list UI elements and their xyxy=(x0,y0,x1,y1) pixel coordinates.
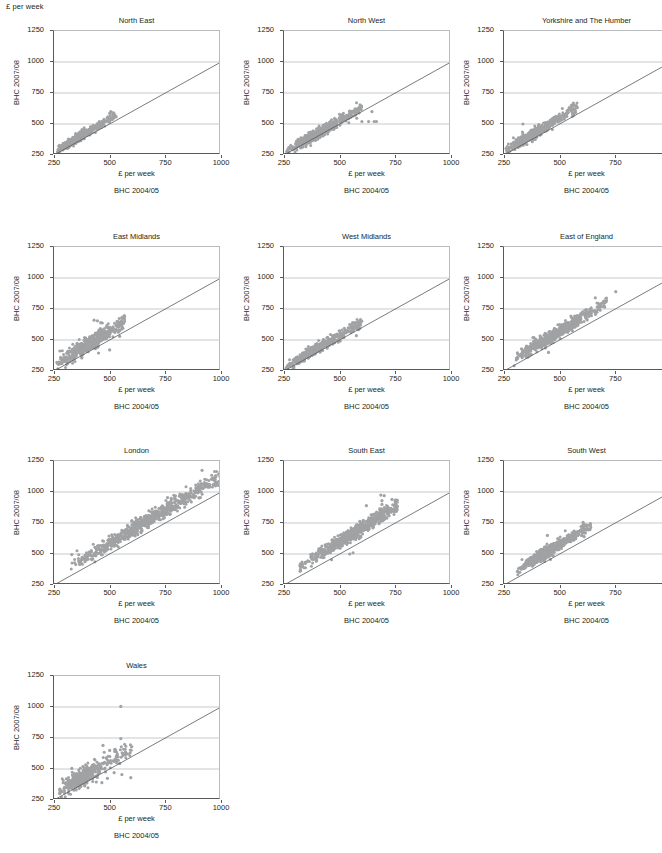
data-point xyxy=(135,519,138,522)
x-axis-title: £ per week xyxy=(53,599,220,608)
data-point xyxy=(526,558,529,561)
data-point xyxy=(299,353,302,356)
panel-title: South East xyxy=(283,446,450,455)
data-point xyxy=(118,329,121,332)
data-point xyxy=(517,140,520,143)
data-point xyxy=(74,132,77,135)
x-tick-label: 750 xyxy=(389,158,402,167)
data-point xyxy=(77,557,80,560)
data-point xyxy=(162,505,165,508)
data-point xyxy=(177,501,180,504)
reference-line-y-equals-x xyxy=(54,492,220,584)
data-point xyxy=(382,512,385,515)
data-point xyxy=(585,315,588,318)
y-tick-label: 1000 xyxy=(477,57,494,65)
data-point xyxy=(122,322,125,325)
data-point xyxy=(175,504,178,507)
data-point xyxy=(189,489,192,492)
data-point xyxy=(289,144,292,147)
data-point xyxy=(130,519,133,522)
y-tick-label: 500 xyxy=(261,335,274,343)
data-point xyxy=(140,528,143,531)
data-point xyxy=(586,524,589,527)
data-point xyxy=(367,516,370,519)
scatter-points xyxy=(298,494,399,573)
data-point xyxy=(89,125,92,128)
data-point-outlier xyxy=(120,773,123,776)
data-point xyxy=(149,522,152,525)
scatter-panel: North West25050075010001250BHC 2007/0825… xyxy=(238,16,458,216)
data-point xyxy=(71,348,74,351)
data-point xyxy=(119,748,122,751)
data-point xyxy=(309,144,312,147)
reference-line-y-equals-x xyxy=(504,492,662,584)
data-point xyxy=(58,792,61,795)
data-point xyxy=(74,360,77,363)
data-point xyxy=(589,524,592,527)
data-point xyxy=(507,149,510,152)
data-point-outlier xyxy=(380,499,383,502)
data-point xyxy=(520,347,523,350)
data-point xyxy=(559,333,562,336)
data-point xyxy=(335,118,338,121)
data-point-outlier xyxy=(351,551,354,554)
data-point xyxy=(85,771,88,774)
x-axis-subtitle: BHC 2004/05 xyxy=(503,616,662,625)
data-point xyxy=(510,142,513,145)
data-point-outlier xyxy=(108,112,111,115)
data-point xyxy=(126,524,129,527)
data-point xyxy=(100,550,103,553)
y-tick-label: 1000 xyxy=(477,273,494,281)
data-point xyxy=(326,124,329,127)
data-point xyxy=(302,353,305,356)
data-point xyxy=(159,518,162,521)
data-point xyxy=(380,516,383,519)
data-point xyxy=(219,471,220,474)
data-point xyxy=(382,508,385,511)
data-point xyxy=(129,528,132,531)
data-point xyxy=(318,548,321,551)
data-point xyxy=(544,124,547,127)
x-tick-label: 500 xyxy=(103,158,116,167)
data-point xyxy=(78,781,81,784)
data-point xyxy=(386,509,389,512)
data-point-outlier xyxy=(521,122,524,125)
data-point xyxy=(571,109,574,112)
x-tick-label: 500 xyxy=(553,374,566,383)
data-point xyxy=(146,516,149,519)
data-point xyxy=(81,563,84,566)
x-axis-subtitle: BHC 2004/05 xyxy=(53,831,220,840)
data-point xyxy=(86,343,89,346)
x-axis-ticks: 2505007501000 xyxy=(53,585,223,599)
panel-title: Wales xyxy=(53,661,220,670)
data-point xyxy=(147,526,150,529)
data-point-outlier xyxy=(585,528,588,531)
scatter-panel: North East25050075010001250BHC 2007/0825… xyxy=(8,16,228,216)
data-point xyxy=(340,114,343,117)
data-point xyxy=(119,534,122,537)
scatter-points xyxy=(504,101,578,154)
data-point xyxy=(605,299,608,302)
data-point xyxy=(548,545,551,548)
data-point xyxy=(65,352,68,355)
data-point xyxy=(288,358,291,361)
data-point xyxy=(110,548,113,551)
x-tick-label: 1000 xyxy=(443,588,460,597)
data-point xyxy=(310,565,313,568)
data-point xyxy=(112,537,115,540)
data-point xyxy=(144,522,147,525)
x-tick-label: 250 xyxy=(498,588,511,597)
data-point xyxy=(102,762,105,765)
x-tick-label: 250 xyxy=(498,374,511,383)
data-point xyxy=(523,139,526,142)
data-point xyxy=(57,148,60,151)
data-point xyxy=(86,347,89,350)
data-point xyxy=(71,343,74,346)
plot-area xyxy=(503,246,662,370)
data-point-outlier xyxy=(365,504,368,507)
data-point xyxy=(598,308,601,311)
x-tick-label: 500 xyxy=(333,158,346,167)
plot-area xyxy=(53,460,220,584)
data-point xyxy=(533,124,536,127)
data-point xyxy=(393,505,396,508)
